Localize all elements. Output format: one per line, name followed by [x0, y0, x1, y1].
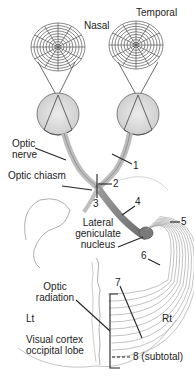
- label-temporal: Temporal: [136, 7, 177, 18]
- label-lgn-line1: Lateral: [70, 217, 126, 228]
- lesion-label-3: 3: [93, 198, 99, 209]
- label-right: Rt: [162, 313, 172, 324]
- right-visual-field: [109, 21, 163, 69]
- label-optic-chiasm: Optic chiasm: [8, 170, 66, 181]
- label-visual-cortex-line2: occipital lobe: [26, 345, 84, 356]
- midline-fissure: [96, 258, 100, 365]
- left-optic-nerve: [64, 133, 96, 186]
- lesion-6-mark: [148, 259, 160, 265]
- right-eye: [117, 93, 159, 135]
- label-optic-nerve-line2: nerve: [12, 149, 37, 160]
- lesion-label-8: 8 (subtotal): [133, 351, 183, 362]
- lesion-label-7: 7: [115, 277, 121, 288]
- label-optic-radiation-line1: Optic: [30, 281, 80, 292]
- label-optic-nerve-line1: Optic: [12, 138, 35, 149]
- lesion-label-1: 1: [133, 160, 139, 171]
- label-optic-radiation-line2: radiation: [28, 292, 82, 303]
- lesion-7-mark: [120, 286, 142, 338]
- label-lgn-line2: geniculate: [66, 228, 130, 239]
- brain-outline-right-upper: [120, 177, 168, 190]
- lesion-label-4: 4: [135, 196, 141, 207]
- label-left: Lt: [26, 313, 34, 324]
- brain-outline-left: [25, 199, 70, 268]
- lesion-4-mark: [122, 206, 135, 215]
- lesion-label-2: 2: [113, 178, 119, 189]
- label-visual-cortex-line1: Visual cortex: [26, 334, 83, 345]
- left-eye: [37, 93, 79, 135]
- label-lgn-line3: nucleus: [70, 239, 126, 250]
- label-nasal: Nasal: [84, 20, 110, 31]
- lesion-label-6: 6: [141, 250, 147, 261]
- visual-pathway-diagram: [0, 0, 194, 382]
- lesion-label-5: 5: [181, 216, 187, 227]
